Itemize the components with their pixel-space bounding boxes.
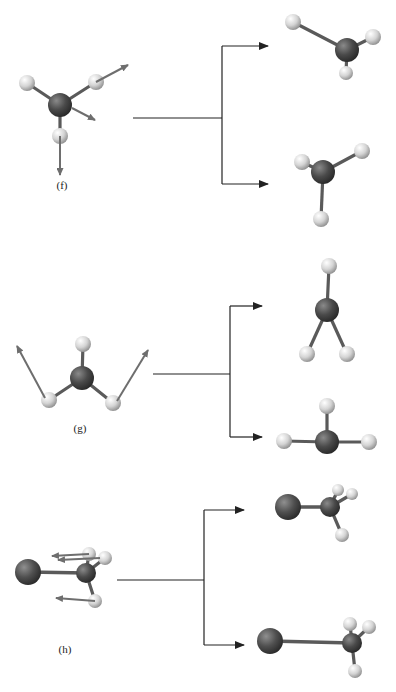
hydrogen-atom bbox=[339, 66, 353, 80]
hydrogen-atom bbox=[335, 528, 349, 542]
carbon-atom bbox=[342, 633, 362, 653]
displacement-vector-arrow bbox=[96, 65, 128, 82]
hydrogen-atom bbox=[348, 664, 362, 678]
molecules-layer bbox=[15, 14, 381, 678]
halogen-atom bbox=[257, 628, 283, 654]
halogen-atom bbox=[275, 494, 301, 520]
source-molecule-h bbox=[15, 547, 112, 608]
carbon-atom bbox=[76, 563, 96, 583]
hydrogen-atom bbox=[313, 211, 329, 227]
hydrogen-atom bbox=[276, 433, 292, 449]
flow-arrows-layer bbox=[117, 46, 268, 645]
hydrogen-atom bbox=[365, 29, 381, 45]
source-molecule-f bbox=[19, 65, 128, 175]
panel-label-h: (h) bbox=[50, 643, 80, 655]
hydrogen-atom bbox=[332, 484, 344, 496]
displacement-vector-arrow bbox=[17, 346, 45, 398]
reaction-diagram bbox=[0, 0, 396, 692]
displacement-vector-arrow bbox=[58, 558, 100, 560]
source-molecule-g bbox=[17, 336, 148, 411]
hydrogen-atom bbox=[294, 154, 310, 170]
hydrogen-atom bbox=[321, 258, 337, 274]
product-molecule-g-2 bbox=[276, 398, 377, 454]
carbon-atom bbox=[315, 298, 339, 322]
displacement-vector-arrow bbox=[72, 108, 95, 120]
hydrogen-atom bbox=[362, 620, 376, 634]
product-molecule-f-2 bbox=[294, 143, 370, 227]
panel-label-g: (g) bbox=[65, 422, 95, 434]
carbon-atom bbox=[335, 38, 359, 62]
displacement-vector-arrow bbox=[117, 350, 148, 401]
product-molecule-h-2 bbox=[257, 617, 376, 678]
panel-label-f: (f) bbox=[47, 179, 77, 191]
hydrogen-atom bbox=[98, 551, 112, 565]
carbon-atom bbox=[320, 497, 340, 517]
branch-arrow-g bbox=[153, 306, 262, 437]
hydrogen-atom bbox=[339, 346, 355, 362]
hydrogen-atom bbox=[319, 398, 335, 414]
branch-arrow-h bbox=[117, 510, 244, 645]
hydrogen-atom bbox=[346, 488, 358, 500]
product-molecule-g-1 bbox=[299, 258, 355, 362]
branch-arrow-f bbox=[133, 46, 268, 184]
product-molecule-f-1 bbox=[285, 14, 381, 80]
hydrogen-atom bbox=[19, 75, 35, 91]
hydrogen-atom bbox=[285, 14, 301, 30]
hydrogen-atom bbox=[75, 336, 91, 352]
halogen-atom bbox=[15, 559, 41, 585]
hydrogen-atom bbox=[361, 434, 377, 450]
hydrogen-atom bbox=[299, 346, 315, 362]
hydrogen-atom bbox=[354, 143, 370, 159]
carbon-atom bbox=[311, 160, 335, 184]
product-molecule-h-1 bbox=[275, 484, 358, 542]
carbon-atom bbox=[48, 93, 72, 117]
carbon-atom bbox=[70, 366, 94, 390]
hydrogen-atom bbox=[343, 617, 357, 631]
carbon-atom bbox=[315, 430, 339, 454]
